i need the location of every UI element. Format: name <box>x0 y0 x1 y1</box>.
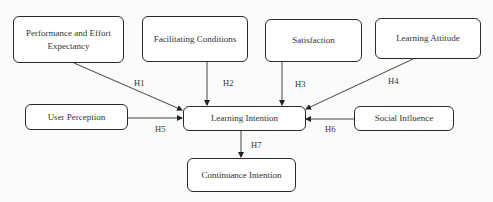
node-learning-attitude: Learning Attitude <box>375 18 481 59</box>
edge-label-h5: H5 <box>155 124 165 134</box>
node-satisfaction: Satisfaction <box>265 19 362 62</box>
node-user-perception: User Perception <box>25 104 128 130</box>
edge-label-h2: H2 <box>223 78 233 88</box>
edge-label-h7: H7 <box>251 140 261 150</box>
edge-label-h6: H6 <box>325 124 335 134</box>
node-social-influence: Social Influence <box>354 106 454 131</box>
node-learning-intention: Learning Intention <box>183 106 306 131</box>
edge-label-h3: H3 <box>295 79 305 89</box>
node-continuance-intention: Continuance Intention <box>187 158 296 192</box>
edge-h1 <box>74 63 182 110</box>
edge-label-h1: H1 <box>134 78 144 88</box>
node-performance-effort-expectancy: Performance and Effort Expectancy <box>13 16 124 63</box>
edge-label-h4: H4 <box>388 76 398 86</box>
node-facilitating-conditions: Facilitating Conditions <box>142 16 248 62</box>
